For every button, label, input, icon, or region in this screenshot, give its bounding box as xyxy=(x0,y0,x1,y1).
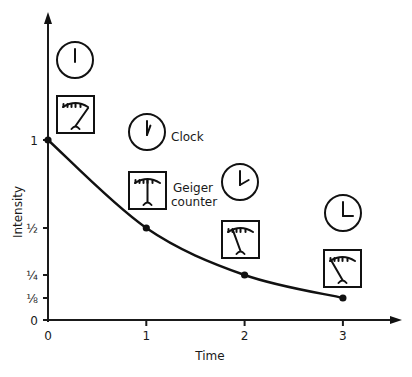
x-axis-arrow-icon xyxy=(390,316,402,324)
y-tick-label: ¼ xyxy=(26,269,38,283)
x-tick-label: 0 xyxy=(44,329,52,343)
geiger-counter-icon xyxy=(324,250,361,287)
data-point xyxy=(339,294,346,301)
clock-label: Clock xyxy=(171,130,204,144)
data-point xyxy=(241,271,248,278)
clock-icon xyxy=(57,42,93,78)
x-tick-label: 3 xyxy=(339,329,347,343)
decay-curve xyxy=(48,140,343,298)
data-point xyxy=(44,136,51,143)
x-axis-label: Time xyxy=(194,349,224,363)
geiger-counter-icon xyxy=(129,172,166,209)
y-tick-label: 0 xyxy=(30,314,38,328)
clock-icon xyxy=(222,164,258,200)
x-tick-label: 2 xyxy=(241,329,249,343)
geiger-label-line1: Geiger xyxy=(173,181,213,195)
geiger-label-line2: counter xyxy=(171,195,217,209)
y-tick-label: 1 xyxy=(30,134,38,148)
x-tick-label: 1 xyxy=(142,329,150,343)
clock-icon xyxy=(129,114,165,150)
geiger-counter-icon xyxy=(222,221,259,258)
y-axis-arrow-icon xyxy=(44,12,52,24)
instruments xyxy=(57,42,361,287)
y-axis-label: Intensity xyxy=(11,186,25,238)
data-points xyxy=(44,136,346,301)
geiger-counter-icon xyxy=(57,96,94,133)
y-tick-label: ⅛ xyxy=(26,292,38,306)
y-tick-label: ½ xyxy=(26,222,38,236)
decay-diagram: 01230⅛¼½1 Time Intensity Clock Geiger co… xyxy=(0,0,412,377)
clock-icon xyxy=(325,195,361,231)
data-point xyxy=(143,224,150,231)
